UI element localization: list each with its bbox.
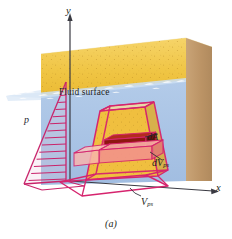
Vps-label: Vps	[141, 197, 153, 208]
y-axis-label: y	[66, 6, 71, 17]
Vps-label-subscript: ps	[147, 200, 153, 207]
fluid-pressure-prism-figure: Fluid surface p y x dA dVps Vps (a)	[0, 0, 232, 239]
dVps-label-main: dV	[152, 157, 163, 168]
x-axis-label: x	[216, 183, 221, 194]
figure-caption: (a)	[105, 219, 117, 229]
fluid-surface-label: Fluid surface	[59, 88, 110, 97]
figure-illustration	[0, 0, 232, 239]
dVps-label: dVps	[152, 158, 169, 169]
pressure-symbol-label: p	[24, 115, 29, 125]
dA-label: dA	[147, 132, 158, 142]
fluid-surface-plane-left-wing	[6, 90, 41, 101]
dVps-label-subscript: ps	[163, 161, 169, 168]
block-water-side-face	[186, 80, 212, 181]
